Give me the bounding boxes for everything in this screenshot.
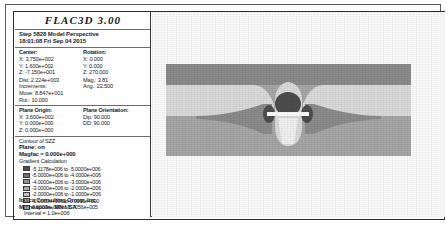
center-column: Center: X: 3.750e+002 Y: 1.600e+002 Z: -… [19, 49, 83, 75]
excavation-slot [267, 112, 309, 116]
legend-swatch-3 [23, 186, 30, 191]
plane-origin-z-row: Z: 0.000e+000 [19, 127, 83, 134]
center-z-value: -7.150e+001 [25, 69, 55, 76]
center-y-value: 1.600e+002 [25, 63, 53, 70]
center-x-value: 3.750e+002 [25, 56, 53, 63]
plane-orientation-label: Plane Orientation: [83, 107, 147, 114]
move-label: Move: [19, 90, 33, 97]
rotation-label: Rotation: [83, 49, 147, 56]
step-line: Step 5828 Model Perspective [19, 31, 147, 38]
center-y-axis: Y: [19, 63, 24, 70]
plot-panel [152, 12, 445, 217]
rotation-z-row: Z: 270.000 [83, 69, 147, 76]
plot-outer-frame: FLAC3D 3.00 Step 5828 Model Perspective … [5, 4, 441, 217]
center-x-row: X: 3.750e+002 [19, 56, 83, 63]
footer-location: Minneapolis, MN USA [19, 204, 147, 211]
plane-dip-axis: Dip: [83, 114, 92, 121]
rotation-y-value: 0.000 [89, 63, 102, 70]
rotation-y-axis: Y: [83, 63, 88, 70]
dist-value: 2.224e+003 [31, 77, 59, 84]
contour-plot [166, 64, 411, 156]
header-section: Step 5828 Model Perspective 18:01:08 Fri… [15, 30, 150, 48]
plane-dd-row: DD: 90.000 [83, 120, 147, 127]
legend-swatch-2 [23, 179, 30, 184]
dist-row: Dist: 2.224e+003 [19, 77, 83, 84]
rotation-x-row: X: 0.000 [83, 56, 147, 63]
plane-on-label: Plane: on [19, 144, 147, 151]
plane-origin-column: Plane Origin: X: 3.600e+002 Y: 0.000e+00… [19, 107, 83, 133]
plane-orientation-column: Plane Orientation: Dip: 90.000 DD: 90.00… [83, 107, 147, 133]
center-y-row: Y: 1.600e+002 [19, 63, 83, 70]
rotation-y-row: Y: 0.000 [83, 63, 147, 70]
rotation-column: Rotation: X: 0.000 Y: 0.000 Z: 270.000 [83, 49, 147, 75]
increments-label: Increments: [19, 83, 83, 90]
rot-value: 10.000 [31, 97, 47, 104]
screenshot-root: FLAC3D 3.00 Step 5828 Model Perspective … [0, 0, 446, 225]
plane-dip-value: 90.000 [94, 114, 110, 121]
plane-origin-x-row: X: 3.600e+002 [19, 114, 83, 121]
plane-origin-y-row: Y: 0.000e+000 [19, 120, 83, 127]
interval-label: Interval = 1.0e+006 [23, 210, 144, 217]
plane-origin-y-value: 0.000e+000 [25, 120, 53, 127]
mag-value: 3.81 [98, 77, 108, 84]
ang-label: Ang.: [83, 83, 95, 90]
plane-section: Plane Origin: X: 3.600e+002 Y: 0.000e+00… [15, 106, 150, 136]
plane-origin-x-axis: X: [19, 114, 24, 121]
rot-label: Rot.: [19, 97, 30, 104]
rotation-x-axis: X: [83, 56, 88, 63]
mag-column: Mag.: 3.81 Ang.: 22.500 [83, 77, 147, 103]
contour-title: Contour of SZZ [19, 138, 147, 145]
rotation-x-value: 0.000 [89, 56, 102, 63]
view-section: Center: X: 3.750e+002 Y: 1.600e+002 Z: -… [15, 48, 150, 106]
dist-label: Dist: [19, 77, 29, 84]
mag-label: Mag.: [83, 77, 96, 84]
rot-row: Rot.: 10.000 [19, 97, 83, 104]
ang-value: 22.500 [97, 83, 113, 90]
plane-origin-x-value: 3.600e+002 [25, 114, 53, 121]
footer: Itasca Consulting Group, Inc. Minneapoli… [19, 197, 147, 211]
rotation-z-value: 270.000 [89, 69, 108, 76]
plane-origin-z-axis: Z: [19, 127, 24, 134]
center-z-axis: Z: [19, 69, 24, 76]
plane-dip-row: Dip: 90.000 [83, 114, 147, 121]
plane-origin-label: Plane Origin: [19, 107, 83, 114]
center-label: Center: [19, 49, 83, 56]
center-x-axis: X: [19, 56, 24, 63]
legend-swatch-0 [23, 166, 30, 171]
rotation-z-axis: Z: [83, 69, 88, 76]
ang-row: Ang.: 22.500 [83, 83, 147, 90]
date-line: 18:01:08 Fri Sep 04 2015 [19, 38, 147, 45]
gradient-calculation-label: Gradient Calculation [19, 158, 147, 165]
move-row: Move: 8.847e+001 [19, 90, 83, 97]
info-panel: FLAC3D 3.00 Step 5828 Model Perspective … [15, 12, 151, 217]
band-top [166, 64, 411, 85]
mag-row: Mag.: 3.81 [83, 77, 147, 84]
contour-plot-svg [166, 64, 411, 156]
app-title: FLAC3D 3.00 [19, 13, 147, 27]
center-z-row: Z: -7.150e+001 [19, 69, 83, 76]
dist-column: Dist: 2.224e+003 Increments: Move: 8.847… [19, 77, 83, 103]
legend-swatch-1 [23, 173, 30, 178]
magfac-label: Magfac = 0.000e+000 [19, 151, 147, 158]
footer-company: Itasca Consulting Group, Inc. [19, 197, 147, 204]
plane-origin-y-axis: Y: [19, 120, 24, 127]
plane-dd-value: 90.000 [94, 120, 110, 127]
title-section: FLAC3D 3.00 [15, 12, 150, 30]
plane-dd-axis: DD: [83, 120, 92, 127]
plane-origin-z-value: 0.000e+000 [25, 127, 53, 134]
move-value: 8.847e+001 [35, 90, 63, 97]
